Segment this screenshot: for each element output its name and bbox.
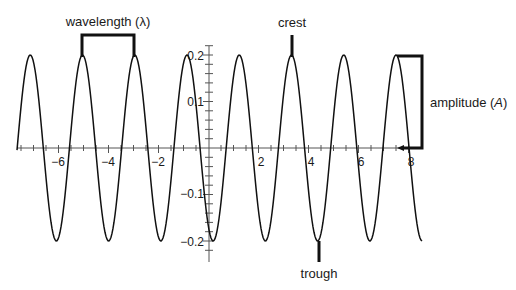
wavelength-label: wavelength (λ) [65,14,151,29]
amplitude-annotation: amplitude (A) [397,56,507,151]
wavelength-annotation: wavelength (λ) [65,14,151,57]
x-axis: −6 −4 −2 2 4 6 8 [17,145,415,169]
x-tick-label: −6 [51,155,65,169]
amplitude-label: amplitude (A) [430,95,507,110]
crest-label: crest [278,15,307,30]
x-axis-ticks [21,145,409,153]
amplitude-label-prefix: amplitude ( [430,95,495,110]
crest-annotation: crest [278,15,307,57]
trough-label: trough [301,266,338,281]
x-tick-label: −2 [151,155,165,169]
y-tick-label: −0.1 [180,187,204,201]
wavelength-bracket [82,35,134,57]
trough-annotation: trough [301,241,338,281]
x-tick-label: −4 [101,155,115,169]
y-axis: 0.2 0.1 −0.1 −0.2 [180,46,213,262]
y-tick-label: −0.2 [180,235,204,249]
amplitude-label-suffix: ) [503,95,507,110]
x-tick-label: 4 [308,155,315,169]
arrow-left-icon [397,145,404,151]
x-tick-label: 2 [258,155,265,169]
wave-diagram: −6 −4 −2 2 4 6 8 0.2 0.1 −0.1 −0.2 wavel… [0,0,516,290]
amplitude-symbol: A [493,95,503,110]
